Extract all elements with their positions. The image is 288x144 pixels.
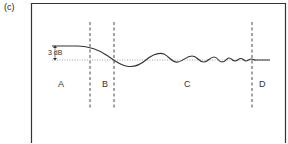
response-curve: [52, 46, 270, 67]
db-annotation: 3 dB: [48, 49, 62, 56]
region-b-label: B: [102, 79, 108, 89]
region-d-label: D: [259, 79, 266, 89]
frame: [32, 4, 286, 144]
region-c-label: C: [184, 79, 191, 89]
region-a-label: A: [58, 79, 64, 89]
frequency-response-diagram: [0, 0, 288, 143]
